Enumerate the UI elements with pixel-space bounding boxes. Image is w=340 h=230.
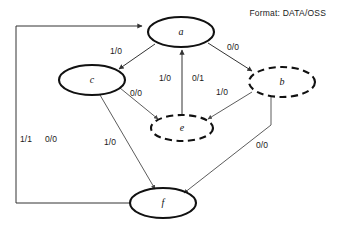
node-b-label: b xyxy=(280,76,285,87)
node-a[interactable]: a xyxy=(148,17,214,47)
edge-a-to-c xyxy=(119,44,155,69)
edge-b-to-e xyxy=(208,92,252,119)
state-machine-diagram: a c b e f 1/0 0/0 1/0 0/1 0/0 1/0 1/0 0/… xyxy=(0,0,340,230)
edge-label-e-to-a-alt: 0/1 xyxy=(192,73,204,83)
edge-label-b-to-f: 0/0 xyxy=(256,140,268,150)
diagram-canvas: a c b e f 1/0 0/0 1/0 0/1 0/0 1/0 1/0 0/… xyxy=(0,0,340,230)
edge-label-f-to-a-alt: 0/0 xyxy=(45,134,57,144)
edge-label-b-to-e: 1/0 xyxy=(216,87,228,97)
node-e-label: e xyxy=(180,122,185,133)
edge-label-f-to-a: 1/1 xyxy=(20,134,32,144)
edge-f-to-a xyxy=(16,26,142,203)
node-c-label: c xyxy=(90,74,95,85)
node-a-label: a xyxy=(179,26,184,37)
edge-label-c-to-f: 1/0 xyxy=(104,137,116,147)
node-e[interactable]: e xyxy=(151,115,213,141)
edge-label-e-to-a: 1/0 xyxy=(159,73,171,83)
edge-label-a-to-c: 1/0 xyxy=(110,46,122,56)
format-legend: Format: DATA/OSS xyxy=(249,8,326,18)
node-f[interactable]: f xyxy=(130,188,196,218)
node-b[interactable]: b xyxy=(249,67,315,97)
edge-label-a-to-b: 0/0 xyxy=(227,42,239,52)
edge-label-c-to-e: 0/0 xyxy=(130,88,142,98)
node-f-label: f xyxy=(162,197,166,208)
node-c[interactable]: c xyxy=(59,65,125,95)
